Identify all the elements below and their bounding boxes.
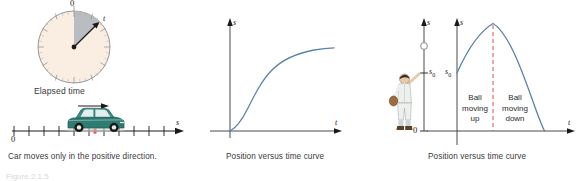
right-graph-x-axis — [427, 128, 575, 134]
panel-ball-toss-position-versus-time: s s0s0 0 s s0s0 t Ball moving up Ball mo… — [383, 0, 588, 181]
player-vertical-axis — [420, 18, 428, 131]
right-graph-t-label: t — [568, 118, 570, 127]
middle-y-axis — [227, 18, 233, 138]
player-axis-origin-label: 0 — [413, 125, 417, 135]
number-line-s-label: s — [176, 118, 179, 127]
middle-panel-caption: Position versus time curve — [226, 152, 324, 161]
car-direction-caption: Car moves only in the positive direction… — [8, 152, 157, 161]
player-axis-s0-label: s0s0 — [429, 67, 435, 78]
ball-moving-up-label: Ball moving up — [458, 93, 492, 125]
clock-zero-label: 0 — [70, 0, 74, 8]
ball-moving-down-label: Ball moving down — [496, 93, 534, 125]
right-graph-s0-label: s0s0 — [445, 67, 451, 78]
right-graph-y-axis — [454, 18, 460, 145]
car-illustration — [65, 108, 125, 132]
middle-position-curve — [230, 48, 334, 131]
player-axis-s-label: s — [427, 18, 430, 27]
elapsed-time-caption: Elapsed time — [34, 86, 85, 96]
panel-elapsed-time-and-car: 0 t Elapsed time 0 s Car moves only in t… — [0, 0, 200, 181]
right-panel-caption: Position versus time curve — [428, 152, 526, 161]
panel-position-versus-time-s-curve: s t Position versus time curve — [198, 0, 388, 181]
ball-icon — [421, 43, 428, 50]
right-graph-s-label: s — [460, 18, 463, 27]
middle-x-axis-label: t — [335, 118, 337, 127]
clock-hand-t-label: t — [103, 14, 105, 23]
number-line-origin-label: 0 — [11, 134, 15, 144]
baseball-player-illustration — [389, 74, 419, 130]
middle-y-axis-label: s — [233, 18, 236, 27]
figure-number-label: Figure 2.1.5 — [6, 172, 49, 181]
clock-face-icon — [38, 6, 110, 83]
physics-figure: 0 t Elapsed time 0 s Car moves only in t… — [0, 0, 588, 181]
